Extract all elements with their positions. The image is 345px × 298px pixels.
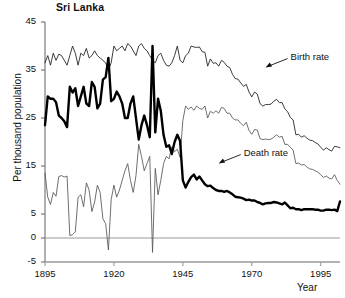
data-series (45, 44, 340, 253)
x-tick-label: 1945 (161, 268, 205, 279)
series-line-natural-increase (45, 106, 340, 252)
x-tick-label: 1920 (92, 268, 136, 279)
annotation-arrow-head (219, 158, 226, 163)
y-tick-label: 25 (12, 111, 36, 122)
annotation-arrow-line (222, 155, 241, 163)
annotation-arrow-head (266, 62, 273, 67)
annotation-arrow-line (269, 59, 288, 67)
x-tick-label: 1995 (299, 268, 343, 279)
y-tick-label: 35 (12, 63, 36, 74)
y-tick-label: -5 (12, 255, 36, 266)
y-tick-label: 0 (12, 231, 36, 242)
y-tick-label: 45 (12, 15, 36, 26)
y-tick-label: 15 (12, 159, 36, 170)
annotation-label-death-rate: Death rate (244, 147, 288, 158)
chart-sri-lanka-vital-rates: Sri Lanka Per thousand population Year -… (0, 0, 345, 298)
x-tick-label: 1970 (230, 268, 274, 279)
series-line-death-rate (45, 46, 340, 211)
annotation-label-birth-rate: Birth rate (291, 51, 330, 62)
y-tick-label: 5 (12, 207, 36, 218)
x-tick-label: 1895 (23, 268, 67, 279)
plot-area (0, 0, 345, 298)
